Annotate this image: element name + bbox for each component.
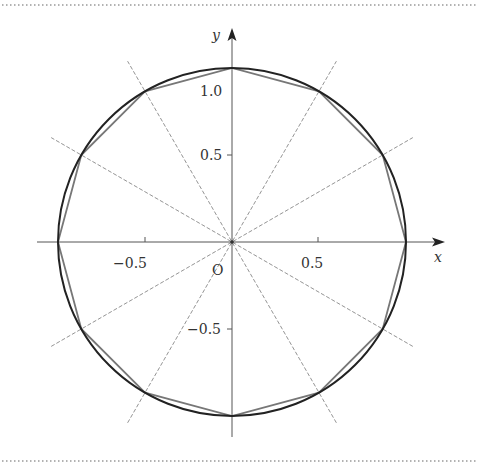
y-tick-label-neg-0.5: −0.5 [187,321,221,337]
x-axis-label: x [434,249,442,265]
figure-canvas: x y O −0.5 0.5 1.0 0.5 −0.5 [0,0,480,467]
x-tick-label-neg-0.5: −0.5 [113,255,147,271]
y-axis-label: y [211,27,221,43]
origin-point [230,240,234,244]
y-tick-label-1.0: 1.0 [200,83,222,99]
x-tick-label-0.5: 0.5 [301,255,323,271]
origin-label: O [212,262,223,278]
y-tick-label-0.5: 0.5 [200,147,222,163]
